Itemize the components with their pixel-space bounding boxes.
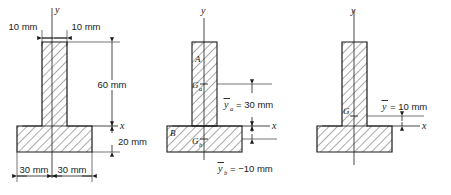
figure-1-canvas: y x 10 mm 10 mm 60 mm 20 mm 30 mm: [0, 0, 152, 195]
t-section-shape: [317, 42, 392, 152]
x-axis-label: x: [271, 120, 277, 131]
figure-decomposed-t-section: y x A G a B G b y a = 30 mm y b: [152, 0, 302, 195]
part-b-label: B: [170, 128, 176, 138]
figure-2-canvas: y x A G a B G b y a = 30 mm y b: [152, 0, 302, 195]
figure-3-canvas: y x G y = 10 mm: [302, 0, 451, 195]
dim-label-flange-right: 30 mm: [57, 164, 86, 175]
centroid-label: G: [343, 106, 350, 116]
y-axis-label: y: [54, 4, 60, 15]
ybar-value: = 10 mm: [390, 101, 427, 112]
ybar-b-subscript: b: [224, 169, 228, 176]
dim-label-web-height: 60 mm: [97, 79, 126, 90]
ybar-a-symbol: y: [223, 99, 229, 110]
ybar-a-value: = 30 mm: [236, 99, 273, 110]
part-a-label: A: [194, 54, 201, 64]
centroid-a-subscript: a: [199, 85, 202, 92]
ybar-a-subscript: a: [230, 105, 233, 112]
ybar-b-symbol: y: [217, 163, 223, 174]
dim-label-web-left: 10 mm: [8, 21, 37, 32]
x-axis-label: x: [421, 120, 427, 131]
centroid-b-label: G: [192, 136, 199, 146]
t-section-shape: [17, 42, 92, 152]
ybar-b-value: = −10 mm: [230, 163, 273, 174]
figure-composite-centroid-t-section: y x G y = 10 mm: [302, 0, 451, 195]
x-axis-label: x: [119, 120, 125, 131]
ybar-symbol: y: [381, 101, 387, 112]
y-axis-label: y: [350, 5, 356, 16]
y-axis-label: y: [200, 5, 206, 16]
figure-dimensioned-t-section: y x 10 mm 10 mm 60 mm 20 mm 30 mm: [0, 0, 152, 195]
dim-label-web-right: 10 mm: [71, 21, 100, 32]
dim-label-flange-left: 30 mm: [19, 164, 48, 175]
dim-label-flange-height: 20 mm: [118, 136, 147, 147]
centroid-a-label: G: [192, 80, 199, 90]
